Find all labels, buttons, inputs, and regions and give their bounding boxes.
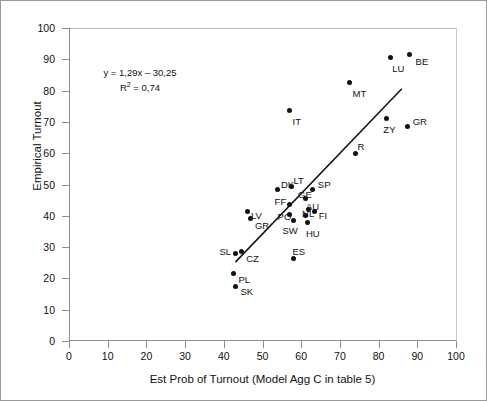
y-axis-tick <box>62 247 69 248</box>
y-axis-tick-label: 90 <box>29 54 55 65</box>
data-point-label: SL <box>219 247 231 257</box>
x-axis-tick-label: 40 <box>209 351 239 362</box>
y-axis-tick <box>62 185 69 186</box>
x-axis-tick-label: 20 <box>131 351 161 362</box>
x-axis-tick-label: 10 <box>93 351 123 362</box>
y-axis-tick <box>62 91 69 92</box>
y-axis-tick <box>62 310 69 311</box>
data-point-label: GE <box>298 190 312 200</box>
data-point-label: PO <box>278 212 292 222</box>
y-axis-tick-label: 60 <box>29 148 55 159</box>
x-axis-tick <box>301 341 302 348</box>
data-point-label: NL <box>302 209 314 219</box>
y-axis-tick <box>62 278 69 279</box>
y-axis-tick <box>62 216 69 217</box>
data-point-label: HU <box>306 229 320 239</box>
x-axis-tick <box>456 341 457 348</box>
y-axis-tick <box>62 153 69 154</box>
x-axis-tick <box>224 341 225 348</box>
data-point <box>388 55 393 60</box>
y-axis-tick <box>62 28 69 29</box>
data-point-label: LT <box>294 176 304 186</box>
data-point-label: PL <box>238 275 250 285</box>
x-axis-tick-label: 80 <box>364 351 394 362</box>
data-point <box>233 284 238 289</box>
y-axis-tick-label: 100 <box>29 23 55 34</box>
data-point-label: R <box>357 142 364 152</box>
scatter-chart-figure: Empirical Turnout Est Prob of Turnout (M… <box>0 0 487 401</box>
data-point <box>305 220 310 225</box>
x-axis-tick <box>417 341 418 348</box>
x-axis-tick-label: 100 <box>441 351 471 362</box>
x-axis-tick-label: 0 <box>54 351 84 362</box>
data-point-label: SP <box>318 180 331 190</box>
x-axis-tick <box>146 341 147 348</box>
data-point <box>245 209 250 214</box>
x-axis-tick <box>185 341 186 348</box>
data-point-label: BE <box>416 57 429 67</box>
x-axis-tick-label: 70 <box>325 351 355 362</box>
data-point-label: ZY <box>383 125 395 135</box>
x-axis-tick-label: 60 <box>286 351 316 362</box>
data-point-label: MT <box>353 89 367 99</box>
y-axis-tick-label: 80 <box>29 86 55 97</box>
y-axis-tick-label: 50 <box>29 180 55 191</box>
data-point-label: SK <box>240 287 253 297</box>
x-axis-tick <box>263 341 264 348</box>
data-point-label: CZ <box>246 254 259 264</box>
data-point <box>291 218 296 223</box>
data-point-label: SW <box>282 226 297 236</box>
y-axis-tick <box>62 122 69 123</box>
y-axis-tick-label: 20 <box>29 273 55 284</box>
data-point <box>233 251 238 256</box>
x-axis-tick-label: 90 <box>402 351 432 362</box>
y-axis-tick-label: 10 <box>29 305 55 316</box>
data-point-label: GR <box>255 221 269 231</box>
data-point-label: DK <box>281 180 294 190</box>
data-point-label: GR <box>413 117 427 127</box>
y-axis-tick-label: 40 <box>29 211 55 222</box>
y-axis-tick-label: 30 <box>29 242 55 253</box>
x-axis-tick <box>379 341 380 348</box>
data-point-label: FI <box>319 211 327 221</box>
x-axis-tick-label: 50 <box>248 351 278 362</box>
x-axis-tick-label: 30 <box>170 351 200 362</box>
data-point-label: LU <box>392 64 404 74</box>
x-axis-tick <box>108 341 109 348</box>
data-point-label: FF <box>275 197 287 207</box>
trend-line <box>1 1 487 401</box>
data-point-label: ES <box>292 247 305 257</box>
y-axis-tick <box>62 341 69 342</box>
y-axis-tick-label: 70 <box>29 117 55 128</box>
data-point-label: IT <box>293 117 301 127</box>
data-point <box>239 249 244 254</box>
y-axis-tick <box>62 59 69 60</box>
x-axis-tick <box>340 341 341 348</box>
x-axis-tick <box>69 341 70 348</box>
y-axis-tick-label: 0 <box>29 336 55 347</box>
